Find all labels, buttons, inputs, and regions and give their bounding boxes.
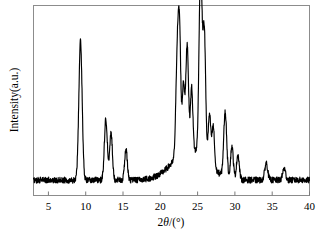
x-axis-tick-label: 20 bbox=[155, 200, 167, 212]
figure-container: 510152025303540 2θ/(°) Intensity(a.u.) bbox=[0, 0, 326, 242]
xrd-chart: 510152025303540 2θ/(°) Intensity(a.u.) bbox=[0, 0, 326, 242]
x-axis-tick-labels: 510152025303540 bbox=[46, 200, 316, 212]
x-axis-tick-label: 40 bbox=[304, 200, 316, 212]
x-axis-title-suffix: /(°) bbox=[169, 216, 185, 229]
x-axis-tick-label: 15 bbox=[118, 200, 130, 212]
x-axis-tick-label: 10 bbox=[80, 200, 92, 212]
x-axis-tick-label: 35 bbox=[267, 200, 279, 212]
plot-frame bbox=[34, 6, 310, 196]
x-axis-title: 2θ/(°) bbox=[158, 216, 185, 229]
x-axis-tick-label: 30 bbox=[229, 200, 241, 212]
x-axis-tick-label: 5 bbox=[46, 200, 52, 212]
y-axis-title: Intensity(a.u.) bbox=[8, 68, 21, 133]
x-axis-tick-label: 25 bbox=[192, 200, 204, 212]
